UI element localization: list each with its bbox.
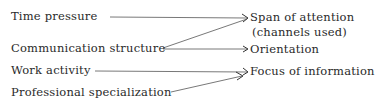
arrowhead-icon bbox=[243, 68, 248, 75]
source-communication-structure: Communication structure bbox=[11, 42, 165, 55]
target-span-of-attention: Span of attention bbox=[250, 11, 354, 24]
edge-communication-to-span bbox=[163, 19, 247, 48]
target-orientation: Orientation bbox=[250, 43, 319, 56]
source-time-pressure: Time pressure bbox=[11, 10, 98, 23]
edge-work-to-focus bbox=[95, 71, 247, 72]
source-work-activity: Work activity bbox=[11, 64, 91, 77]
source-professional-specialization: Professional specialization bbox=[11, 86, 172, 99]
target-span-of-attention-sublabel: (channels used) bbox=[252, 26, 347, 39]
target-focus-of-information: Focus of information bbox=[250, 65, 375, 78]
edge-time-to-span bbox=[110, 17, 247, 18]
edge-specialization-to-focus bbox=[171, 76, 242, 92]
